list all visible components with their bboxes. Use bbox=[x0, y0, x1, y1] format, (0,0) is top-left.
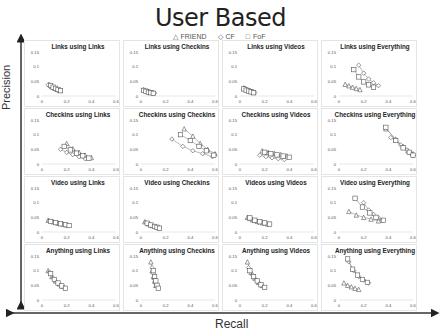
svg-text:0.6: 0.6 bbox=[113, 99, 119, 104]
svg-text:0.1: 0.1 bbox=[231, 268, 237, 273]
svg-text:0.6: 0.6 bbox=[113, 235, 119, 240]
chart-panel: Checkins using Links00.050.10.1500.20.40… bbox=[24, 108, 120, 175]
svg-text:0.4: 0.4 bbox=[187, 235, 193, 240]
svg-text:0.05: 0.05 bbox=[31, 215, 40, 220]
svg-text:0.4: 0.4 bbox=[88, 303, 94, 308]
panel-title: Video using Checkins bbox=[144, 179, 210, 187]
svg-text:0.1: 0.1 bbox=[330, 64, 336, 69]
svg-text:0.2: 0.2 bbox=[262, 303, 268, 308]
chart-panel: Checkins using Everything00.050.10.1500.… bbox=[321, 108, 417, 175]
svg-text:0.4: 0.4 bbox=[385, 99, 391, 104]
panel-title: Links using Links bbox=[51, 43, 105, 51]
svg-text:0.4: 0.4 bbox=[187, 167, 193, 172]
svg-text:0.05: 0.05 bbox=[328, 283, 337, 288]
panel-title: Checkins using Videos bbox=[242, 111, 311, 119]
svg-text:0.4: 0.4 bbox=[286, 235, 292, 240]
svg-text:0.6: 0.6 bbox=[311, 303, 317, 308]
svg-text:0.6: 0.6 bbox=[410, 235, 416, 240]
svg-text:0.6: 0.6 bbox=[212, 303, 218, 308]
svg-text:0.6: 0.6 bbox=[113, 167, 119, 172]
svg-text:0.2: 0.2 bbox=[163, 235, 169, 240]
svg-text:0.1: 0.1 bbox=[132, 268, 138, 273]
panel-title: Checkins using Checkins bbox=[139, 111, 216, 119]
svg-text:0.05: 0.05 bbox=[31, 283, 40, 288]
chart-panel: Anything using Checkins00.050.10.1500.20… bbox=[123, 244, 219, 311]
svg-text:0.15: 0.15 bbox=[328, 118, 337, 123]
svg-text:0.05: 0.05 bbox=[328, 79, 337, 84]
svg-text:0.15: 0.15 bbox=[328, 50, 337, 55]
chart-panel: Links using Checkins00.050.10.1500.20.40… bbox=[123, 40, 219, 107]
svg-text:0.1: 0.1 bbox=[231, 200, 237, 205]
svg-text:0.4: 0.4 bbox=[286, 99, 292, 104]
chart-panel: Anything using Videos00.050.10.1500.20.4… bbox=[222, 244, 318, 311]
svg-text:0.4: 0.4 bbox=[385, 235, 391, 240]
svg-text:0.1: 0.1 bbox=[231, 132, 237, 137]
svg-text:0.2: 0.2 bbox=[64, 167, 70, 172]
svg-text:0.15: 0.15 bbox=[31, 118, 40, 123]
panel-title: Links using Everything bbox=[340, 43, 409, 51]
svg-text:0.4: 0.4 bbox=[385, 303, 391, 308]
svg-text:0.6: 0.6 bbox=[311, 167, 317, 172]
svg-text:0.2: 0.2 bbox=[361, 99, 367, 104]
svg-text:0.2: 0.2 bbox=[361, 167, 367, 172]
svg-text:0.1: 0.1 bbox=[132, 64, 138, 69]
chart-panel: Video using Everything00.050.10.1500.20.… bbox=[321, 176, 417, 243]
svg-text:0.4: 0.4 bbox=[286, 303, 292, 308]
svg-text:0.05: 0.05 bbox=[229, 147, 238, 152]
svg-text:0.1: 0.1 bbox=[231, 64, 237, 69]
svg-text:0.15: 0.15 bbox=[328, 186, 337, 191]
svg-text:0.4: 0.4 bbox=[385, 167, 391, 172]
svg-text:0.05: 0.05 bbox=[130, 283, 139, 288]
svg-text:0.1: 0.1 bbox=[330, 132, 336, 137]
panel-title: Checkins using Everything bbox=[335, 111, 416, 119]
svg-text:0.2: 0.2 bbox=[361, 235, 367, 240]
panel-grid: Links using Links00.050.10.1500.20.40.6L… bbox=[24, 40, 419, 315]
svg-text:0.2: 0.2 bbox=[361, 303, 367, 308]
svg-text:0.15: 0.15 bbox=[229, 254, 238, 259]
svg-text:0.6: 0.6 bbox=[311, 235, 317, 240]
svg-text:0.05: 0.05 bbox=[229, 283, 238, 288]
svg-text:0.2: 0.2 bbox=[64, 235, 70, 240]
svg-text:0.05: 0.05 bbox=[130, 215, 139, 220]
chart-panel: Anything using Links00.050.10.1500.20.40… bbox=[24, 244, 120, 311]
svg-text:0.1: 0.1 bbox=[132, 200, 138, 205]
svg-text:0.05: 0.05 bbox=[328, 147, 337, 152]
chart-panel: Video using Links00.050.10.1500.20.40.6 bbox=[24, 176, 120, 243]
x-axis-label: Recall bbox=[215, 317, 248, 331]
svg-text:0.6: 0.6 bbox=[212, 99, 218, 104]
chart-panel: Anything using Everything00.050.10.1500.… bbox=[321, 244, 417, 311]
svg-text:0.6: 0.6 bbox=[212, 167, 218, 172]
svg-text:0.05: 0.05 bbox=[130, 147, 139, 152]
svg-text:0.6: 0.6 bbox=[410, 99, 416, 104]
svg-text:0.4: 0.4 bbox=[88, 99, 94, 104]
svg-text:0.15: 0.15 bbox=[130, 254, 139, 259]
chart-panel: Links using Videos00.050.10.1500.20.40.6 bbox=[222, 40, 318, 107]
svg-text:0.05: 0.05 bbox=[328, 215, 337, 220]
chart-panel: Videos using Videos00.050.10.1500.20.40.… bbox=[222, 176, 318, 243]
svg-text:0.15: 0.15 bbox=[229, 186, 238, 191]
svg-text:0.15: 0.15 bbox=[229, 118, 238, 123]
panel-title: Anything using Checkins bbox=[139, 247, 215, 255]
svg-text:0.05: 0.05 bbox=[31, 79, 40, 84]
svg-text:0.15: 0.15 bbox=[130, 186, 139, 191]
svg-text:0.6: 0.6 bbox=[311, 99, 317, 104]
svg-text:0.15: 0.15 bbox=[31, 186, 40, 191]
svg-text:0.1: 0.1 bbox=[33, 268, 39, 273]
svg-text:0.2: 0.2 bbox=[64, 303, 70, 308]
svg-text:0.4: 0.4 bbox=[88, 167, 94, 172]
panel-title: Links using Checkins bbox=[145, 43, 210, 51]
svg-text:0.1: 0.1 bbox=[33, 200, 39, 205]
svg-text:0.15: 0.15 bbox=[328, 254, 337, 259]
svg-text:0.2: 0.2 bbox=[163, 167, 169, 172]
svg-text:0.15: 0.15 bbox=[31, 254, 40, 259]
svg-text:0.1: 0.1 bbox=[132, 132, 138, 137]
svg-text:0.6: 0.6 bbox=[212, 235, 218, 240]
chart-panel: Video using Checkins00.050.10.1500.20.40… bbox=[123, 176, 219, 243]
chart-panel: Links using Everything00.050.10.1500.20.… bbox=[321, 40, 417, 107]
svg-text:0.15: 0.15 bbox=[130, 118, 139, 123]
svg-text:0.15: 0.15 bbox=[31, 50, 40, 55]
svg-text:0.6: 0.6 bbox=[410, 303, 416, 308]
panel-title: Video using Links bbox=[51, 179, 105, 187]
svg-text:0.2: 0.2 bbox=[262, 167, 268, 172]
svg-text:0.2: 0.2 bbox=[64, 99, 70, 104]
